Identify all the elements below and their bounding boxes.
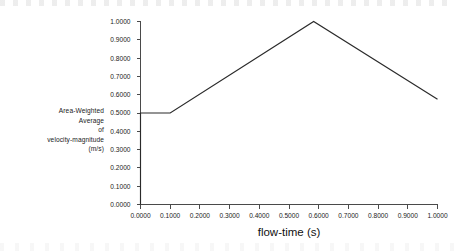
y-tick-label: 0.3000 xyxy=(110,146,131,153)
x-tick-label: 0.0000 xyxy=(130,212,151,219)
y-tick-label: 0.1000 xyxy=(110,183,131,190)
x-tick-label: 0.2000 xyxy=(190,212,211,219)
x-tick-label: 1.0000 xyxy=(427,212,448,219)
y-tick-mark-group xyxy=(137,22,141,205)
y-tick-label: 0.9000 xyxy=(110,36,131,43)
y-axis-title-line-2: Average xyxy=(4,116,104,126)
y-axis-title: Area-Weighted Average of velocity-magnit… xyxy=(4,106,104,154)
x-tick-label: 0.6000 xyxy=(309,212,330,219)
y-tick-label: 0.4000 xyxy=(110,128,131,135)
y-tick-label: 0.5000 xyxy=(110,109,131,116)
data-series-line xyxy=(141,22,438,205)
x-tick-label: 0.1000 xyxy=(160,212,181,219)
x-tick-mark-group xyxy=(141,205,438,209)
y-tick-label: 0.8000 xyxy=(110,55,131,62)
y-axis-title-line-4: velocity-magnitude xyxy=(4,135,104,145)
y-axis-title-line-5: (m/s) xyxy=(4,144,104,154)
x-tick-label: 0.7000 xyxy=(338,212,359,219)
y-tick-label: 1.0000 xyxy=(110,18,131,25)
x-tick-label-group: 0.00000.10000.20000.30000.40000.50000.60… xyxy=(130,212,448,219)
y-tick-label: 0.7000 xyxy=(110,73,131,80)
flow-time-velocity-chart: Area-Weighted Average of velocity-magnit… xyxy=(0,0,454,251)
x-tick-label: 0.5000 xyxy=(279,212,300,219)
y-tick-label: 0.2000 xyxy=(110,164,131,171)
x-tick-label: 0.3000 xyxy=(220,212,241,219)
y-tick-label: 0.0000 xyxy=(110,201,131,208)
x-tick-label: 0.4000 xyxy=(249,212,270,219)
x-axis-title: flow-time (s) xyxy=(140,226,438,238)
y-tick-label-group: 0.00000.10000.20000.30000.40000.50000.60… xyxy=(110,18,131,208)
y-axis-title-line-3: of xyxy=(4,125,104,135)
x-tick-label: 0.9000 xyxy=(398,212,419,219)
x-tick-label: 0.8000 xyxy=(368,212,389,219)
y-tick-label: 0.6000 xyxy=(110,91,131,98)
y-axis-title-line-1: Area-Weighted xyxy=(4,106,104,116)
